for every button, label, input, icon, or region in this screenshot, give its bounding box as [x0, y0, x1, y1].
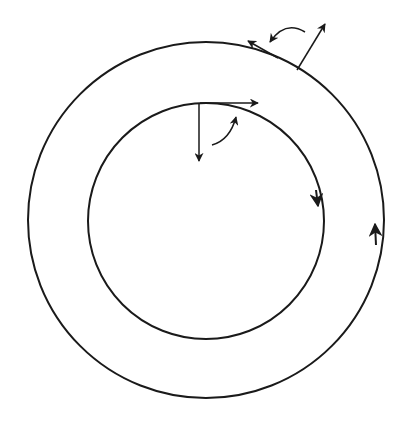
concentric-circles-diagram	[0, 0, 402, 422]
outer-vectors	[248, 24, 325, 70]
outer-radial-vector-icon	[297, 24, 325, 70]
outer-circle	[28, 42, 384, 398]
inner-direction-arrow-icon	[316, 190, 318, 206]
outer-direction-arrow-icon	[375, 224, 376, 245]
outer-tangent-vector-icon	[248, 41, 278, 58]
outer-rotation-arrow-icon	[270, 28, 305, 42]
inner-circle	[88, 103, 324, 339]
inner-rotation-arrow-icon	[212, 117, 236, 145]
